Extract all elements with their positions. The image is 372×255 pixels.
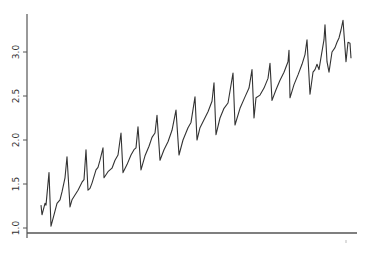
- y-axis: 1.01.52.02.53.0: [11, 14, 27, 238]
- y-tick-label: 3.0: [11, 45, 21, 60]
- y-tick-label: 2.0: [11, 133, 21, 148]
- y-tick-label: 2.5: [11, 89, 21, 103]
- y-tick-label: 1.5: [11, 177, 21, 191]
- line-chart: 1.01.52.02.53.0: [0, 0, 372, 255]
- y-tick-label: 1.0: [11, 221, 21, 236]
- series-line: [41, 20, 351, 226]
- y-ticks: 1.01.52.02.53.0: [11, 45, 27, 236]
- x-axis: [27, 233, 357, 243]
